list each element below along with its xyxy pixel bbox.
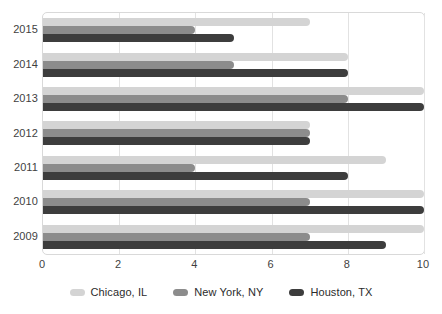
- bar[interactable]: [43, 95, 348, 103]
- x-tick-label: 0: [39, 258, 45, 270]
- y-tick-label: 2009: [0, 230, 38, 242]
- bar[interactable]: [43, 129, 310, 137]
- gridline: [424, 13, 425, 254]
- bar[interactable]: [43, 233, 310, 241]
- x-tick-label: 6: [267, 258, 273, 270]
- bar[interactable]: [43, 87, 424, 95]
- legend-swatch-icon: [289, 289, 304, 296]
- bar-group: [43, 220, 424, 254]
- x-tick-label: 2: [115, 258, 121, 270]
- chart-legend: Chicago, ILNew York, NYHouston, TX: [0, 286, 442, 298]
- bar-group: [43, 13, 424, 47]
- legend-label: Houston, TX: [310, 286, 372, 298]
- bar[interactable]: [43, 156, 386, 164]
- bar-group: [43, 47, 424, 81]
- bar[interactable]: [43, 172, 348, 180]
- legend-item[interactable]: New York, NY: [173, 286, 263, 298]
- plot-area: [42, 12, 425, 255]
- y-tick-label: 2015: [0, 23, 38, 35]
- legend-label: Chicago, IL: [91, 286, 148, 298]
- bar[interactable]: [43, 198, 310, 206]
- bar[interactable]: [43, 241, 386, 249]
- bar-group: [43, 116, 424, 150]
- bar[interactable]: [43, 190, 424, 198]
- x-tick-label: 4: [191, 258, 197, 270]
- bar[interactable]: [43, 121, 310, 129]
- legend-swatch-icon: [173, 289, 188, 296]
- bar[interactable]: [43, 137, 310, 145]
- bar-group: [43, 185, 424, 219]
- bar[interactable]: [43, 18, 310, 26]
- y-tick-label: 2011: [0, 161, 38, 173]
- x-tick-label: 10: [417, 258, 429, 270]
- x-tick-label: 8: [344, 258, 350, 270]
- bar[interactable]: [43, 34, 234, 42]
- bar[interactable]: [43, 206, 424, 214]
- bar[interactable]: [43, 164, 195, 172]
- bar-chart: 2015201420132012201120102009 0246810 Chi…: [0, 0, 442, 314]
- bar[interactable]: [43, 61, 234, 69]
- bar[interactable]: [43, 69, 348, 77]
- y-tick-label: 2012: [0, 127, 38, 139]
- bar[interactable]: [43, 225, 424, 233]
- bar[interactable]: [43, 26, 195, 34]
- y-tick-label: 2010: [0, 195, 38, 207]
- y-tick-label: 2013: [0, 92, 38, 104]
- y-axis: 2015201420132012201120102009: [0, 12, 38, 255]
- legend-item[interactable]: Chicago, IL: [70, 286, 148, 298]
- legend-label: New York, NY: [194, 286, 263, 298]
- x-axis: 0246810: [42, 258, 425, 276]
- bar[interactable]: [43, 103, 424, 111]
- legend-item[interactable]: Houston, TX: [289, 286, 372, 298]
- bar-groups: [43, 13, 424, 254]
- bar[interactable]: [43, 53, 348, 61]
- bar-group: [43, 151, 424, 185]
- bar-group: [43, 82, 424, 116]
- y-tick-label: 2014: [0, 58, 38, 70]
- legend-swatch-icon: [70, 289, 85, 296]
